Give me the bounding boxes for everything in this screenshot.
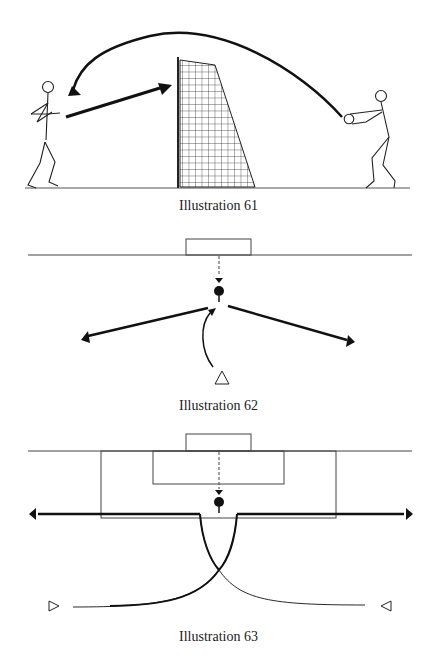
goal [186, 434, 251, 451]
player-triangle-icon-left [49, 601, 59, 611]
player-triangle-icon-right [381, 601, 391, 611]
caption-illustration-62: Illustration 62 [0, 398, 437, 414]
right-player-figure [344, 91, 395, 189]
left-player-figure [28, 82, 60, 189]
illustration-61 [25, 33, 410, 190]
arrowhead [215, 278, 223, 283]
caption-illustration-63: Illustration 63 [0, 629, 437, 645]
illustration-63 [28, 434, 413, 611]
arrowhead [215, 490, 223, 495]
arrowhead [81, 331, 90, 343]
pass-arrow-left [88, 308, 208, 336]
pass-arrow-right [228, 306, 347, 340]
pass-arrow-to-net [66, 88, 160, 117]
diagram-canvas [0, 0, 437, 666]
player-triangle-icon [215, 371, 229, 384]
arrowhead-right [406, 508, 413, 520]
ball [214, 497, 224, 507]
arrowhead-left [29, 508, 36, 520]
player-run-arrow [203, 313, 213, 367]
ball [214, 286, 224, 296]
arrowhead [158, 83, 172, 95]
ball [344, 114, 354, 124]
illustration-62 [28, 239, 412, 384]
net [175, 55, 265, 190]
run-path-right-to-left [73, 514, 400, 607]
goal [186, 239, 251, 255]
caption-illustration-61: Illustration 61 [0, 198, 437, 214]
arrowhead [346, 335, 355, 347]
